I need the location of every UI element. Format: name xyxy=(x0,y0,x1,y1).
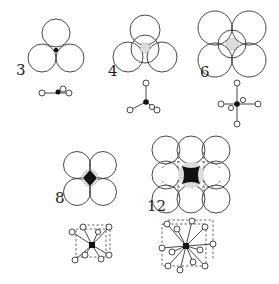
panel-cn12: 12 xyxy=(147,136,230,273)
label-cn3: 3 xyxy=(16,61,26,79)
cn4-ball-stick xyxy=(127,80,160,113)
panel-cn8: 8 xyxy=(55,152,117,264)
label-cn6: 6 xyxy=(200,63,210,81)
coordination-diagram: 3 4 6 xyxy=(0,0,279,284)
panel-cn4: 4 xyxy=(108,15,177,113)
label-cn4: 4 xyxy=(108,62,118,80)
panel-cn6: 6 xyxy=(198,11,266,127)
cn3-ball-stick xyxy=(39,86,72,96)
cn6-ball-stick xyxy=(218,80,261,127)
cn12-ball-stick xyxy=(159,218,216,273)
panel-cn3: 3 xyxy=(16,19,84,96)
cn8-ball-stick xyxy=(69,224,112,263)
